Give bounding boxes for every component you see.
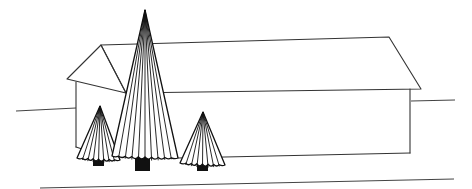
tree-rib: [203, 112, 204, 168]
house-and-trees-drawing: [0, 0, 472, 189]
ground-line-3: [40, 179, 454, 188]
tall-center-tree: [112, 10, 178, 171]
ground-line-2: [411, 100, 455, 101]
ground-line-1: [16, 108, 76, 111]
